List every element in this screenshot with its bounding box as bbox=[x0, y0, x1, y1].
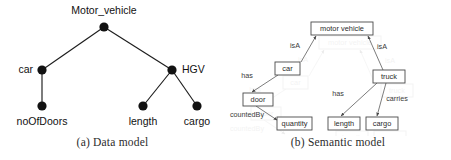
node-label-cargo: cargo bbox=[184, 115, 210, 127]
node-noofdoors bbox=[37, 101, 46, 110]
box-label-motor-vehicle: motor vehicle bbox=[320, 24, 364, 33]
figure-container: Motor_vehicle car HGV noOfDoors length c… bbox=[0, 0, 451, 160]
relation-label-countedby: countedBy bbox=[230, 110, 264, 119]
node-motor_vehicle bbox=[99, 22, 108, 31]
ghost-label-car: car bbox=[290, 78, 301, 87]
box-label-truck: truck bbox=[381, 72, 397, 81]
ghost-relation-label-countedby: countedBy bbox=[230, 124, 264, 133]
relation-label-has-door: has bbox=[241, 71, 253, 80]
node-label-hgv: HGV bbox=[182, 63, 205, 75]
node-length bbox=[138, 101, 147, 110]
node-cargo bbox=[192, 101, 201, 110]
node-label-car: car bbox=[18, 63, 33, 75]
node-car bbox=[37, 65, 46, 74]
caption-data-model: (a) Data model bbox=[0, 136, 225, 148]
ghost-edge-isa-car bbox=[309, 50, 324, 76]
box-label-car: car bbox=[282, 64, 293, 73]
relation-label-has-length: has bbox=[332, 89, 344, 98]
data-model-diagram: Motor_vehicle car HGV noOfDoors length c… bbox=[0, 0, 225, 136]
relation-label-isa-car: isA bbox=[290, 41, 300, 50]
box-label-door: door bbox=[251, 95, 266, 104]
edge-motor_vehicle-hgv bbox=[104, 27, 172, 70]
relation-edge-car-has-door bbox=[252, 75, 278, 92]
box-label-cargo: cargo bbox=[373, 119, 392, 128]
data-model-nodes bbox=[37, 22, 201, 110]
node-label-motor_vehicle: Motor_vehicle bbox=[71, 4, 137, 16]
semantic-model-diagram: motor vehicle car truck door length carg… bbox=[225, 0, 451, 136]
panel-semantic-model: motor vehicle car truck door length carg… bbox=[225, 0, 451, 160]
relation-label-carries: carries bbox=[386, 94, 408, 103]
node-label-noofdoors: noOfDoors bbox=[17, 115, 68, 127]
caption-semantic-model: (b) Semantic model bbox=[225, 136, 451, 148]
node-label-length: length bbox=[129, 115, 158, 127]
relation-label-isa-truck: isA bbox=[377, 42, 387, 51]
relation-edge-car-isa-motor-vehicle bbox=[301, 36, 316, 62]
ghost-label-motor-vehicle: motor vehicle bbox=[328, 38, 372, 47]
ghost-relation-label-isa-2: isA bbox=[385, 56, 395, 65]
panel-data-model: Motor_vehicle car HGV noOfDoors length c… bbox=[0, 0, 225, 160]
node-hgv bbox=[167, 65, 176, 74]
edge-hgv-length bbox=[143, 70, 172, 106]
relation-edge-truck-has-length bbox=[341, 83, 377, 116]
edge-motor_vehicle-car bbox=[42, 27, 104, 70]
box-label-length: length bbox=[334, 119, 354, 128]
edge-hgv-cargo bbox=[172, 70, 197, 106]
box-label-quantity: quantity bbox=[282, 119, 308, 128]
